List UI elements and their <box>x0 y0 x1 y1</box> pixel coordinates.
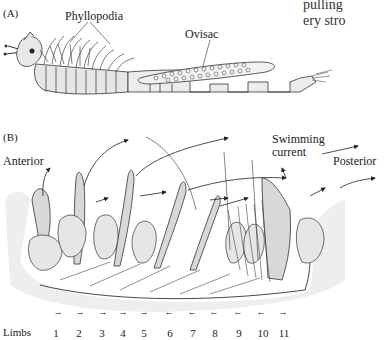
limb-arrow-3: → <box>99 307 108 317</box>
limb-arrow-7: ← <box>188 307 197 317</box>
limb-arrow-4: → <box>119 307 128 317</box>
limbs-label: Limbs <box>3 327 31 338</box>
limb-arrow-1: → <box>54 307 63 317</box>
limb-number-1: 1 <box>53 327 59 339</box>
limb-arrow-2: → <box>76 307 85 317</box>
limb-number-5: 5 <box>141 327 147 339</box>
anterior-label: Anterior <box>3 155 44 167</box>
limb-number-4: 4 <box>120 327 126 339</box>
swimming-current-label: Swimming current <box>272 133 325 159</box>
limb-number-6: 6 <box>167 327 173 339</box>
panel-b-illustration <box>0 0 385 340</box>
limb-arrow-10: ← <box>257 307 266 317</box>
limb-arrow-5: → <box>140 307 149 317</box>
limb-number-8: 8 <box>212 327 218 339</box>
limb-number-11: 11 <box>279 327 290 339</box>
limb-number-10: 10 <box>258 327 269 339</box>
limb-arrow-8: ← <box>210 307 219 317</box>
posterior-label: Posterior <box>333 155 376 167</box>
limb-number-3: 3 <box>99 327 105 339</box>
limb-number-2: 2 <box>76 327 82 339</box>
panel-b-label: (B) <box>3 132 18 143</box>
limb-arrow-6: ← <box>165 307 174 317</box>
swimming-current-line2: current <box>272 146 325 159</box>
limb-arrow-11: → <box>279 307 288 317</box>
limb-number-9: 9 <box>236 327 242 339</box>
limb-number-7: 7 <box>190 327 196 339</box>
limb-arrow-9: ← <box>234 307 243 317</box>
